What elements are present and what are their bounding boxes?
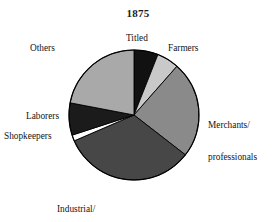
pie-chart-figure: 1875 Titled Farmers Merchants/ professio… — [0, 0, 276, 222]
slice-label-shopkeepers: Shopkeepers — [4, 131, 52, 142]
slice-label-titled: Titled — [126, 33, 148, 44]
slice-label-farmers: Farmers — [168, 43, 198, 54]
slice-label-industrial: Industrial/ building trades — [57, 183, 113, 222]
slice-label-laborers: Laborers — [26, 111, 59, 122]
slice-label-merchants: Merchants/ professionals — [208, 99, 257, 184]
slice-label-merchants-line1: Merchants/ — [208, 120, 257, 131]
pie-slice-group — [69, 50, 199, 180]
slice-label-industrial-line1: Industrial/ — [57, 204, 113, 215]
slice-label-merchants-line2: professionals — [208, 152, 257, 163]
slice-label-others: Others — [30, 43, 55, 54]
